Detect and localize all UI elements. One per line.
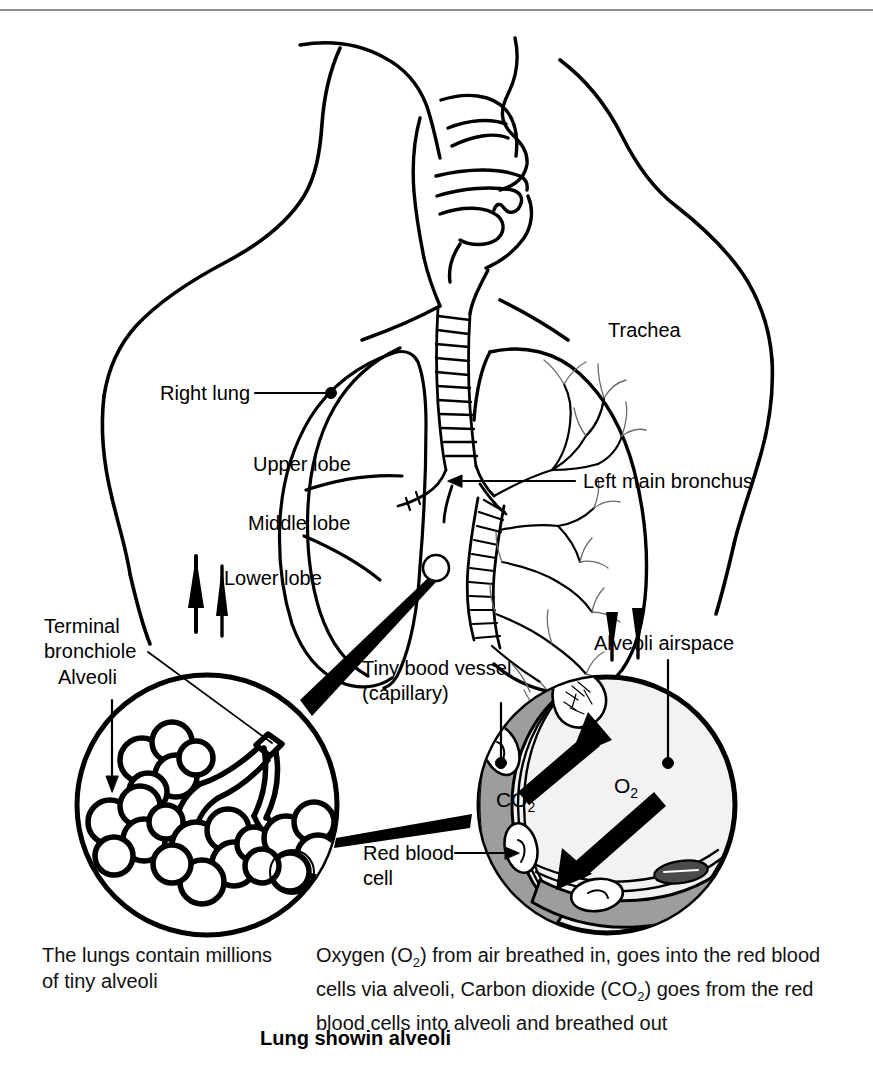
label-terminal-bronchiole-line2: bronchiole — [44, 639, 136, 664]
caption-right-line1-sub: 2 — [413, 955, 420, 970]
co2-text: CO — [496, 788, 528, 811]
label-trachea: Trachea — [608, 318, 681, 343]
caption-right-line1: Oxygen (O2) from air breathed in, goes i… — [316, 942, 856, 976]
label-left-main-bronchus: Left main bronchus — [583, 469, 753, 494]
label-tiny-blood-vessel-line2: (capillary) — [362, 681, 449, 706]
anatomy-illustration — [0, 0, 873, 1067]
label-lower-lobe: Lower lobe — [224, 566, 322, 591]
figure-title: Lung showin alveoli — [260, 1027, 451, 1050]
caption-right-line2-b: ) goes from the red — [644, 978, 813, 1000]
caption-right-line1-a: Oxygen (O — [316, 944, 413, 966]
label-alveoli: Alveoli — [58, 665, 117, 690]
caption-right: Oxygen (O2) from air breathed in, goes i… — [316, 942, 856, 1036]
label-terminal-bronchiole-line1: Terminal — [44, 614, 120, 639]
label-red-blood-cell-line2: cell — [363, 866, 393, 891]
label-tiny-blood-vessel-line1: Tiny bood vessel — [362, 656, 511, 681]
o2-subscript: 2 — [630, 785, 638, 801]
co2-subscript: 2 — [528, 799, 536, 815]
label-alveoli-airspace: Alveoli airspace — [594, 631, 734, 656]
caption-left-line1: The lungs contain millions — [42, 942, 312, 968]
magnification-source-marker — [423, 555, 449, 581]
label-upper-lobe: Upper lobe — [253, 452, 351, 477]
caption-right-line1-b: ) from air breathed in, goes into the re… — [420, 944, 820, 966]
label-co2: CO2 — [496, 788, 535, 815]
left-magnifier-circle — [77, 675, 339, 935]
head-profile — [300, 38, 531, 314]
caption-left-line2: of tiny alveoli — [42, 968, 312, 994]
bronchial-tree-fine — [490, 360, 646, 720]
caption-right-line2-a: cells via alveoli, Carbon dioxide (CO — [316, 978, 637, 1000]
diaphragm-arrows — [188, 556, 228, 636]
label-right-lung: Right lung — [160, 381, 250, 406]
label-middle-lobe: Middle lobe — [248, 511, 350, 536]
figure-canvas: Trachea Right lung Upper lobe Middle lob… — [0, 0, 873, 1067]
caption-left: The lungs contain millions of tiny alveo… — [42, 942, 312, 994]
label-o2: O2 — [614, 774, 638, 801]
caption-right-line2: cells via alveoli, Carbon dioxide (CO2) … — [316, 976, 856, 1010]
o2-text: O — [614, 774, 630, 797]
label-red-blood-cell-line1: Red blood — [363, 841, 454, 866]
